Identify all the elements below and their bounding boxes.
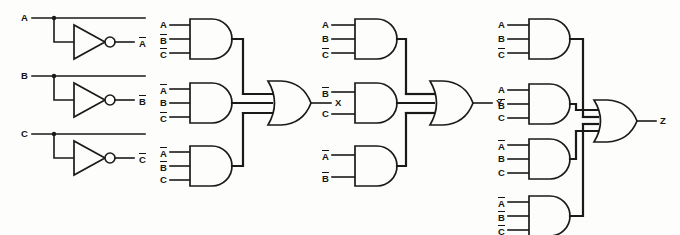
z-and4-input-label-2: B <box>498 211 505 222</box>
z-and2-input-label-1: A <box>498 85 505 95</box>
y-and-gate-3 <box>332 113 406 186</box>
y-and-gate-2 <box>332 83 434 123</box>
inverter-bubble-b <box>105 95 115 105</box>
x-or-body <box>268 81 311 125</box>
z-and1-input-label-3: C <box>498 48 505 59</box>
y-and3-input-label-2: B <box>322 172 329 183</box>
x-and2-body <box>190 83 232 123</box>
x-and1-input-label-2: B <box>160 34 167 45</box>
x-and3-out-wire <box>232 113 243 166</box>
wire-a-to-inverter <box>54 18 74 42</box>
inverter-input-label-a: A <box>21 13 28 23</box>
y-and2-input-label-2: C <box>322 109 329 119</box>
x-and1-input-label-3: C <box>160 48 167 59</box>
y-and2-body <box>355 83 397 123</box>
z-or-gate <box>583 100 656 142</box>
inverter-row-a <box>32 16 145 59</box>
z-and3-input-label-1: A <box>498 140 505 151</box>
y-and1-input-label-3: C <box>322 48 329 59</box>
inverter-triangle-a <box>74 25 105 59</box>
inverter-output-label-not-a: A <box>139 37 146 48</box>
inverter-triangle-c <box>74 141 105 175</box>
y-and1-input-label-2: B <box>322 34 329 44</box>
inverter-output-label-not-c: C <box>139 153 146 164</box>
output-label-z: Z <box>660 116 666 126</box>
inverter-row-b <box>32 74 145 117</box>
z-and4-input-label-3: C <box>498 225 505 235</box>
circuit-schematic-svg <box>0 0 680 235</box>
inverter-bubble-c <box>105 153 115 163</box>
z-and3-body <box>529 139 570 179</box>
x-and1-input-label-1: A <box>160 20 167 30</box>
x-and2-input-label-1: A <box>160 84 167 95</box>
y-and3-body <box>355 146 397 186</box>
z-and1-input-label-2: B <box>498 34 505 44</box>
z-and1-input-label-1: A <box>498 20 505 30</box>
z-and4-body <box>529 196 570 235</box>
x-and3-input-label-3: C <box>160 175 167 185</box>
x-and1-body <box>190 19 232 59</box>
x-and2-input-label-2: B <box>160 98 167 108</box>
inverter-triangle-b <box>74 83 105 117</box>
z-and-gate-3 <box>508 131 598 179</box>
inverter-output-label-not-b: B <box>139 95 146 106</box>
logic-circuit-diagram: A A B B C C A B C A B C A B C X <box>0 0 680 235</box>
z-and2-input-label-3: C <box>498 113 505 123</box>
x-and3-body <box>190 146 232 186</box>
x-and2-input-label-3: C <box>160 112 167 123</box>
z-and2-input-label-2: B <box>498 99 505 110</box>
z-and3-input-label-2: B <box>498 154 505 164</box>
inverter-input-label-b: B <box>21 71 28 81</box>
x-and1-out-wire <box>232 39 243 94</box>
z-and1-body <box>529 19 570 59</box>
x-and-gate-3 <box>170 113 243 186</box>
wire-c-to-inverter <box>54 134 74 158</box>
y-and2-input-label-1: B <box>322 87 329 98</box>
inverter-row-c <box>32 132 145 175</box>
wire-b-to-inverter <box>54 76 74 100</box>
y-and1-input-label-1: A <box>322 20 329 30</box>
y-and3-input-label-1: A <box>322 150 329 161</box>
z-or-body <box>594 100 637 142</box>
y-and1-body <box>355 19 397 59</box>
x-and3-input-label-1: A <box>160 147 167 158</box>
z-and3-input-label-3: C <box>498 168 505 178</box>
inverter-bubble-a <box>105 37 115 47</box>
z-and2-body <box>529 84 570 124</box>
y-and1-out-wire <box>397 39 406 94</box>
y-and3-out-wire <box>397 113 406 166</box>
x-and3-input-label-2: B <box>160 161 167 172</box>
output-label-x: X <box>335 98 341 108</box>
y-or-body <box>430 81 473 125</box>
inverter-input-label-c: C <box>21 129 28 139</box>
x-and-gate-2 <box>170 83 272 123</box>
z-and4-input-label-1: A <box>498 197 505 208</box>
